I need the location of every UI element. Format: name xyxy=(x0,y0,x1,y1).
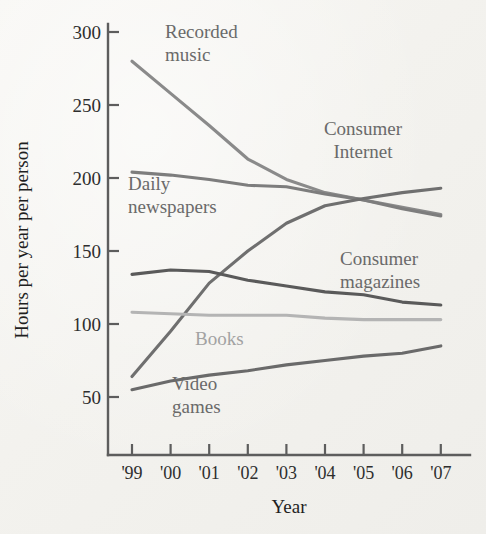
x-axis-title: Year xyxy=(271,496,307,517)
series-label-line: Consumer xyxy=(340,248,419,269)
x-tick-label: '01 xyxy=(199,463,220,483)
x-tick-label: '99 xyxy=(121,463,142,483)
axes-group xyxy=(108,24,470,455)
series-label-line: magazines xyxy=(340,271,420,292)
series-line-books xyxy=(132,312,441,319)
y-tick-label: 150 xyxy=(73,241,102,262)
series-label-consumer-magazines: Consumermagazines xyxy=(340,248,420,292)
series-label-line: music xyxy=(165,44,210,65)
x-tick-group xyxy=(132,444,441,455)
series-label-group: RecordedmusicDailynewspapersConsumerInte… xyxy=(128,21,420,417)
x-tick-label: '00 xyxy=(160,463,181,483)
x-tick-label: '04 xyxy=(314,463,335,483)
y-tick-label: 50 xyxy=(82,387,101,408)
y-tick-label: 300 xyxy=(73,22,102,43)
series-label-line: Video xyxy=(172,373,217,394)
series-label-line: Books xyxy=(195,328,244,349)
x-tick-label: '02 xyxy=(237,463,258,483)
y-tick-label-group: 50100150200250300 xyxy=(73,22,102,408)
line-chart-canvas: 50100150200250300 '99'00'01'02'03'04'05'… xyxy=(0,0,486,534)
series-label-books: Books xyxy=(195,328,244,349)
x-tick-label: '03 xyxy=(276,463,297,483)
series-label-video-games: Videogames xyxy=(172,373,221,417)
series-group xyxy=(132,61,441,390)
series-label-line: Consumer xyxy=(324,118,403,139)
series-label-recorded-music: Recordedmusic xyxy=(165,21,238,65)
series-label-consumer-internet: ConsumerInternet xyxy=(324,118,403,162)
y-tick-label: 100 xyxy=(73,314,102,335)
chart-figure: 50100150200250300 '99'00'01'02'03'04'05'… xyxy=(0,0,486,534)
series-label-line: newspapers xyxy=(128,196,217,217)
y-axis-title: Hours per year per person xyxy=(11,141,32,339)
series-label-line: Recorded xyxy=(165,21,238,42)
y-tick-label: 200 xyxy=(73,168,102,189)
series-label-line: Daily xyxy=(128,173,171,194)
x-tick-label-group: '99'00'01'02'03'04'05'06'07 xyxy=(121,463,451,483)
series-label-line: Internet xyxy=(333,141,393,162)
x-tick-label: '06 xyxy=(392,463,413,483)
series-label-line: games xyxy=(172,396,221,417)
y-tick-label: 250 xyxy=(73,95,102,116)
x-tick-label: '07 xyxy=(430,463,451,483)
x-tick-label: '05 xyxy=(353,463,374,483)
y-tick-group xyxy=(108,32,119,397)
